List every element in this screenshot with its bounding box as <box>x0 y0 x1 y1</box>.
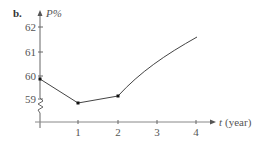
data-point <box>39 78 42 81</box>
x-axis-unit: (year) <box>225 116 252 129</box>
x-tick-2: 2 <box>115 126 121 138</box>
x-tick-1: 1 <box>75 126 81 138</box>
x-axis-label: t(year) <box>219 116 252 129</box>
data-point <box>117 95 120 98</box>
y-axis: P% 62 61 60 59 <box>25 7 62 128</box>
panel-label: b. <box>13 7 22 19</box>
data-point <box>77 102 80 105</box>
chart-figure: b. P% 62 61 60 59 1 2 3 4 t(year) <box>0 0 265 149</box>
y-tick-60: 60 <box>25 70 37 82</box>
y-axis-label: P% <box>45 7 62 19</box>
y-tick-62: 62 <box>25 21 36 33</box>
axis-break-icon <box>38 98 43 128</box>
y-tick-61: 61 <box>25 46 36 58</box>
x-tick-3: 3 <box>154 126 160 138</box>
x-axis: 1 2 3 4 t(year) <box>35 116 252 138</box>
y-axis-arrow-icon <box>38 10 43 16</box>
y-tick-59: 59 <box>25 93 37 105</box>
x-tick-4: 4 <box>193 126 199 138</box>
x-axis-var: t <box>219 116 223 128</box>
x-axis-arrow-icon <box>210 120 216 125</box>
series-p <box>39 37 198 105</box>
